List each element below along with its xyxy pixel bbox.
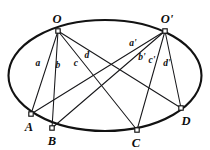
segment-label-d: d: [85, 51, 90, 61]
vertex-label-D: D: [181, 115, 190, 128]
chord-OC: [58, 31, 137, 130]
vertex-marker-D: [179, 106, 183, 110]
vertex-marker-Op: [163, 29, 167, 33]
segment-label-ap: a': [129, 39, 137, 49]
vertex-marker-layer: [29, 29, 183, 132]
vertex-marker-A: [29, 112, 33, 116]
vertex-marker-O: [56, 29, 60, 33]
vertex-label-A: A: [25, 121, 33, 134]
segment-label-cp: c': [148, 56, 155, 66]
segment-label-bp: b': [138, 53, 146, 63]
conic-layer: [9, 20, 202, 131]
chord-OpD: [165, 31, 181, 108]
vertex-label-Op: O': [161, 13, 174, 26]
vertex-label-B: B: [48, 135, 56, 148]
ellipse-outline: [9, 20, 202, 131]
vertex-label-O: O: [52, 13, 61, 26]
segment-label-c: c: [74, 59, 78, 69]
chord-layer: [31, 31, 181, 130]
vertex-marker-C: [135, 128, 139, 132]
segment-label-b: b: [56, 61, 61, 71]
vertex-marker-B: [50, 126, 54, 130]
geometry-figure: OO'ABCDabcda'b'c'd': [0, 0, 210, 150]
segment-label-dp: d': [163, 59, 171, 69]
segment-label-a: a: [36, 59, 41, 69]
vertex-label-C: C: [132, 137, 140, 150]
